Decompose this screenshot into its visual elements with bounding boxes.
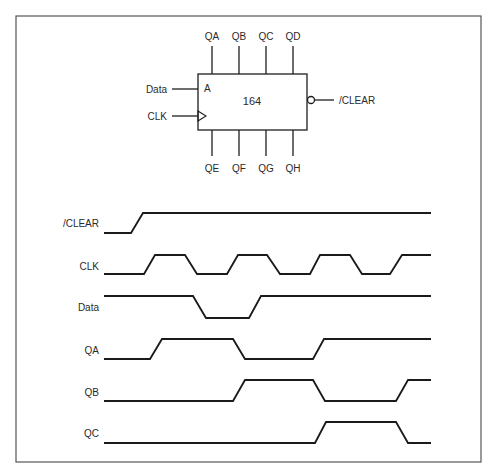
pin-qf-label: QF (232, 163, 246, 174)
clk-input-label: CLK (148, 111, 168, 122)
pin-a-label: A (204, 83, 211, 94)
pin-qd-label: QD (286, 31, 301, 42)
pin-qc-label: QC (259, 31, 274, 42)
waveform-data (104, 296, 431, 318)
pin-qe-label: QE (205, 163, 220, 174)
inversion-bubble-icon (308, 97, 315, 104)
signal-label-qb: QB (85, 387, 100, 398)
signal-label-data: Data (78, 302, 100, 313)
clear-pin: /CLEAR (308, 95, 376, 106)
waveform-clk (104, 255, 431, 274)
pin-qa-label: QA (205, 31, 220, 42)
signal-label-clk: CLK (80, 261, 100, 272)
timing-diagram-canvas: 164 A QA QB QC QD QE QF QG QH Data (0, 0, 493, 474)
pin-qb-label: QB (232, 31, 247, 42)
top-output-pins: QA QB QC QD (205, 31, 301, 74)
waveform-qc (104, 422, 431, 443)
data-input-label: Data (146, 84, 168, 95)
input-pins: Data CLK (146, 84, 206, 122)
clear-pin-label: /CLEAR (339, 95, 375, 106)
waveform-clear (104, 213, 431, 233)
pin-qg-label: QG (258, 163, 274, 174)
signal-label-clear: /CLEAR (63, 218, 99, 229)
waveforms: /CLEAR CLK Data QA QB QC (63, 213, 431, 443)
waveform-qa (104, 339, 431, 359)
signal-label-qc: QC (84, 428, 99, 439)
chip-164-symbol: 164 A QA QB QC QD QE QF QG QH Data (146, 31, 375, 174)
waveform-qb (104, 380, 431, 401)
chip-part-number: 164 (243, 95, 261, 107)
bottom-output-pins: QE QF QG QH (205, 130, 301, 174)
clock-triangle-icon (198, 111, 206, 121)
signal-label-qa: QA (85, 345, 100, 356)
pin-qh-label: QH (286, 163, 301, 174)
